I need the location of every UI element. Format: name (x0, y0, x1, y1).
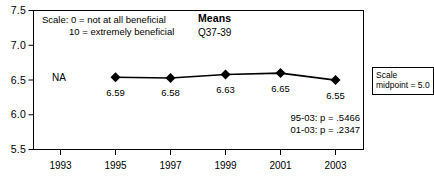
x-tick-label: 1999 (203, 161, 249, 171)
x-axis-ticks (61, 150, 336, 156)
y-axis-ticks (29, 11, 34, 150)
chart-title: Means (198, 12, 231, 26)
x-tick-label: 1993 (38, 161, 84, 171)
x-tick-label: 2001 (258, 161, 304, 171)
scale-midpoint-note: Scale midpoint = 5.0 (372, 67, 434, 95)
scale-midpoint-note-line2: midpoint = 5.0 (376, 81, 430, 91)
x-tick-label: 2003 (313, 161, 359, 171)
pvalue-line-2: 01-03: p = .2347 (291, 124, 360, 136)
pvalue-annotations: 95-03: p = .5466 01-03: p = .2347 (291, 112, 360, 135)
data-point-label: 6.63 (206, 85, 246, 95)
data-point-label: 6.55 (316, 91, 356, 101)
missing-data-label: NA (52, 73, 66, 83)
x-tick-label: 1995 (93, 161, 139, 171)
data-point-label: 6.65 (261, 84, 301, 94)
data-point-label: 6.58 (151, 88, 191, 98)
scale-caption-line2: 10 = extremely beneficial (42, 26, 174, 38)
scale-caption: Scale: 0 = not at all beneficial 10 = ex… (42, 14, 174, 38)
y-tick-label: 7.0 (0, 40, 26, 51)
scale-caption-line1: Scale: 0 = not at all beneficial (42, 14, 166, 25)
y-tick-label: 6.5 (0, 75, 26, 86)
y-tick-label: 7.5 (0, 5, 26, 16)
data-point-label: 6.59 (96, 88, 136, 98)
y-tick-label: 6.0 (0, 109, 26, 120)
x-tick-label: 1997 (148, 161, 194, 171)
chart-title-block: Means Q37-39 (198, 12, 231, 39)
y-tick-label: 5.5 (0, 144, 26, 155)
chart-subtitle: Q37-39 (198, 26, 231, 40)
pvalue-line-1: 95-03: p = .5466 (291, 112, 360, 124)
